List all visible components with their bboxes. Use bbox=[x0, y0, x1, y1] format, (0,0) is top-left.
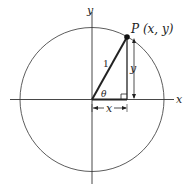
unit-circle-diagram: P (x, y) x y 1 θ x y bbox=[0, 0, 190, 188]
radius-line bbox=[92, 37, 127, 100]
point-label: P (x, y) bbox=[130, 22, 174, 36]
hypotenuse-label: 1 bbox=[103, 57, 109, 69]
arrow-right-icon bbox=[122, 106, 127, 110]
angle-label: θ bbox=[101, 89, 107, 99]
arrow-down-icon bbox=[132, 94, 136, 99]
vertical-leg-label: y bbox=[129, 62, 137, 75]
y-axis-label: y bbox=[86, 4, 94, 17]
arrow-left-icon bbox=[93, 106, 98, 110]
horizontal-leg-label: x bbox=[106, 102, 113, 115]
point-p bbox=[124, 34, 130, 40]
diagram-canvas: P (x, y) x y 1 θ x y bbox=[0, 0, 190, 188]
x-axis-label: x bbox=[176, 93, 183, 106]
